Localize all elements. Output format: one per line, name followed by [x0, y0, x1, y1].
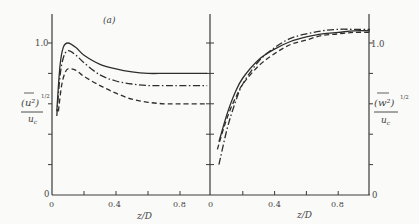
right-curve-dashed — [217, 32, 370, 149]
axes-frame — [52, 14, 370, 195]
chart-figure: (a) 1.0 0 1.0 0 0 0.4 0.8 0 0.4 0.8 z/D … — [0, 0, 419, 224]
ylabel-left-exponent: 1/2 — [41, 93, 50, 99]
ylabel-right-numerator: (w²) — [374, 97, 394, 108]
ylabel-left-denominator: uc — [28, 114, 38, 125]
ytick-right-0: 0 — [372, 190, 377, 200]
ylabel-right: (w²) 1/2 uc — [374, 93, 409, 126]
panel-tag: (a) — [103, 15, 116, 25]
xtick-right-08: 0.8 — [331, 200, 344, 209]
left-curve-solid — [57, 43, 207, 111]
right-curve-dash-dot — [219, 29, 370, 164]
data-curves — [57, 29, 370, 164]
ylabel-left: (u²) 1/2 uc — [21, 93, 50, 125]
ytick-right-1: 1.0 — [371, 39, 385, 49]
xtick-left-08: 0.8 — [173, 200, 186, 209]
xtick-left-04: 0.4 — [108, 200, 121, 209]
xtick-right-04: 0.4 — [268, 200, 281, 209]
left-curve-dashed — [58, 69, 207, 112]
xtick-left-0: 0 — [49, 200, 54, 209]
xlabel-right: z/D — [296, 210, 312, 220]
ytick-left-1: 1.0 — [35, 38, 49, 48]
left-curve-dash-dot — [57, 51, 207, 116]
ytick-left-0: 0 — [44, 189, 49, 199]
ylabel-right-denominator: uc — [381, 115, 391, 126]
ylabel-left-numerator: (u²) — [21, 97, 39, 108]
xtick-right-0: 0 — [208, 200, 213, 209]
ylabel-right-exponent: 1/2 — [400, 94, 409, 100]
xlabel-left: z/D — [136, 211, 152, 221]
